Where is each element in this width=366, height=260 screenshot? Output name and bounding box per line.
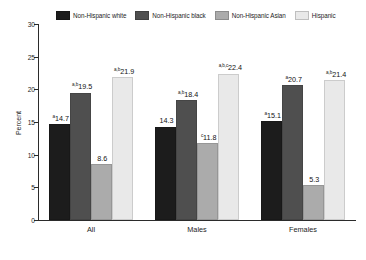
x-axis-group-label: Males: [144, 225, 250, 234]
bar-value-label: a,b,c22.4: [219, 64, 242, 71]
bar-value-label: a20.7: [286, 76, 302, 83]
y-tick-label: 5: [31, 184, 35, 191]
y-tick-label: 20: [28, 86, 35, 93]
bar[interactable]: [176, 100, 197, 220]
bar-value-label: c11.8: [201, 134, 217, 141]
bar-column[interactable]: a20.7: [282, 24, 303, 220]
bar-column[interactable]: a,b18.4: [176, 24, 197, 220]
legend-label-non-hispanic-black: Non-Hispanic black: [152, 12, 205, 19]
y-tick-label: 25: [28, 53, 35, 60]
bar-value-label: 8.6: [97, 155, 107, 162]
bar-group: a14.7a,b19.58.6a,b21.9All: [38, 24, 144, 220]
legend-swatch-non-hispanic-asian: [215, 11, 229, 20]
x-axis-line: [38, 220, 356, 221]
bar-value-label: 5.3: [309, 176, 319, 183]
legend-swatch-non-hispanic-white: [56, 11, 70, 20]
bar[interactable]: [303, 185, 324, 220]
bar[interactable]: [218, 74, 239, 220]
x-axis-group-label: All: [38, 225, 144, 234]
bar-column[interactable]: 5.3: [303, 24, 324, 220]
bar-group: a15.1a20.75.3a,b21.4Females: [250, 24, 356, 220]
bar-column[interactable]: 8.6: [91, 24, 112, 220]
y-tick-label: 10: [28, 151, 35, 158]
legend-label-non-hispanic-white: Non-Hispanic white: [73, 12, 126, 19]
bar-column[interactable]: a,b21.9: [112, 24, 133, 220]
bar-value-label: a,b21.4: [326, 71, 346, 78]
y-tick-label: 15: [28, 119, 35, 126]
bar-column[interactable]: a,b21.4: [324, 24, 345, 220]
x-axis-group-label: Females: [250, 225, 356, 234]
bar[interactable]: [70, 93, 91, 220]
bar-groups: a14.7a,b19.58.6a,b21.9All14.3a,b18.4c11.…: [38, 24, 356, 220]
legend-label-hispanic: Hispanic: [312, 12, 336, 19]
legend-swatch-non-hispanic-black: [135, 11, 149, 20]
bar-column[interactable]: a15.1: [261, 24, 282, 220]
bar[interactable]: [155, 127, 176, 220]
bar-column[interactable]: a,b19.5: [70, 24, 91, 220]
bar-value-label: 14.3: [160, 117, 174, 124]
bar-value-label: a,b21.9: [114, 68, 134, 75]
bar[interactable]: [112, 77, 133, 220]
legend-item-hispanic: Hispanic: [295, 11, 336, 20]
bar-value-label: a15.1: [265, 112, 281, 119]
bar[interactable]: [261, 121, 282, 220]
bar-value-label: a14.7: [53, 115, 69, 122]
bar[interactable]: [49, 124, 70, 220]
y-tick-label: 30: [28, 21, 35, 28]
y-tick-label: 0: [31, 217, 35, 224]
bar-column[interactable]: 14.3: [155, 24, 176, 220]
bar-column[interactable]: a14.7: [49, 24, 70, 220]
bar-column[interactable]: c11.8: [197, 24, 218, 220]
bar[interactable]: [282, 85, 303, 220]
plot-area: Percent 051015202530 a14.7a,b19.58.6a,b2…: [38, 24, 356, 221]
bar-group: 14.3a,b18.4c11.8a,b,c22.4Males: [144, 24, 250, 220]
chart-legend: Non-Hispanic white Non-Hispanic black No…: [56, 8, 362, 22]
bar-column[interactable]: a,b,c22.4: [218, 24, 239, 220]
y-axis-title: Percent: [15, 110, 22, 134]
legend-label-non-hispanic-asian: Non-Hispanic Asian: [232, 12, 286, 19]
bar[interactable]: [197, 143, 218, 220]
legend-item-non-hispanic-black: Non-Hispanic black: [135, 11, 205, 20]
legend-item-non-hispanic-white: Non-Hispanic white: [56, 11, 126, 20]
bar-value-label: a,b19.5: [72, 83, 92, 90]
legend-item-non-hispanic-asian: Non-Hispanic Asian: [215, 11, 286, 20]
bar[interactable]: [324, 80, 345, 220]
legend-swatch-hispanic: [295, 11, 309, 20]
bar[interactable]: [91, 164, 112, 220]
bar-value-label: a,b18.4: [178, 91, 198, 98]
bar-chart: Non-Hispanic white Non-Hispanic black No…: [0, 0, 366, 260]
